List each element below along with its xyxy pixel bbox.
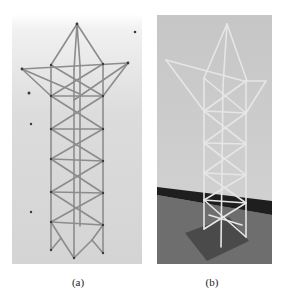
tower-model-icon <box>12 14 142 264</box>
caption-a: (a) <box>63 276 93 288</box>
panel-a-model-render <box>12 14 142 264</box>
tower-photo-icon <box>157 15 272 264</box>
panel-b-photograph <box>157 15 272 264</box>
caption-b: (b) <box>197 276 227 288</box>
